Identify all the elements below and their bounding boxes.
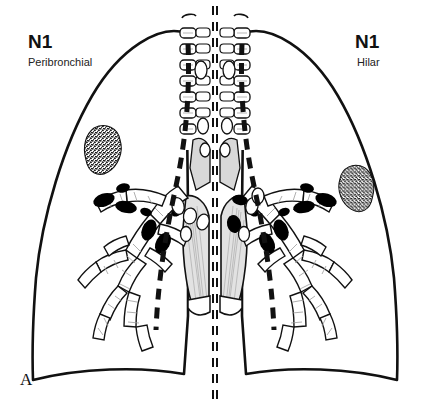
panel-label: A <box>20 370 33 389</box>
right-station-label: N1 <box>355 31 380 52</box>
left-descriptor-label: Peribronchial <box>28 56 92 68</box>
left-station-label: N1 <box>28 31 53 52</box>
lung-lymph-node-diagram: N1 Peribronchial N1 Hilar A <box>0 0 430 412</box>
figure-container: N1 Peribronchial N1 Hilar A <box>0 0 430 412</box>
right-descriptor-label: Hilar <box>357 56 380 68</box>
